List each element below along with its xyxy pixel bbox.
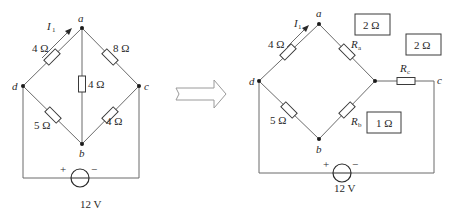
resistor-ab [79,76,86,92]
node-a-label: a [78,12,84,24]
resistor-db-label: 5 Ω [34,119,50,131]
source-voltage-label-right: 12 V [334,182,356,194]
node-d-label: d [12,80,18,92]
resistor-bc-label: 4 Ω [106,115,122,127]
node-d-right [257,79,261,83]
current-sub-right: 1 [298,23,302,31]
right-arrow-icon [176,80,226,108]
value-box-Ra-text: 2 Ω [363,19,379,31]
node-center-right [373,79,377,83]
node-c-label: c [144,80,149,92]
resistor-da-label: 4 Ω [32,42,48,54]
right-circuit: I 1 a d c b 4 Ω 5 Ω R a R b R c 2 Ω 2 Ω … [249,7,442,194]
resistor-Ra-sub: a [358,44,362,52]
resistor-db-right-label: 5 Ω [270,114,286,126]
node-d-label-right: d [249,75,255,87]
resistor-Ra-label: R [350,38,358,50]
source-minus: − [91,163,97,175]
source-plus: + [60,163,66,175]
resistor-ab-label: 4 Ω [88,78,104,90]
source-voltage-label: 12 V [80,198,102,210]
value-box-Rc-text: 2 Ω [414,39,430,51]
resistor-ac-label: 8 Ω [113,42,129,54]
current-sub: 1 [52,26,56,34]
node-b-label-right: b [316,143,322,155]
wire-d-source-right [259,81,333,173]
left-circuit: I 1 a d c b 4 Ω 8 Ω 4 Ω 5 Ω 4 Ω + − 12 V [12,12,149,210]
resistor-Rc-sub: c [407,68,410,76]
node-a-right [317,22,321,26]
source-plus-right: + [323,158,329,170]
node-c-label-right: c [437,74,442,86]
node-b-label: b [79,147,85,159]
resistor-Rc-label: R [399,62,407,74]
resistor-da-right-label: 4 Ω [268,38,284,50]
node-d [21,84,25,88]
resistor-Rb-label: R [350,115,358,127]
resistor-Rb-sub: b [358,121,362,129]
circuit-diagram: I 1 a d c b 4 Ω 8 Ω 4 Ω 5 Ω 4 Ω + − 12 V [0,0,456,218]
node-b-right [317,137,321,141]
node-a [80,26,84,30]
resistor-Rc [397,78,415,85]
value-box-Rb-text: 1 Ω [376,117,392,129]
source-minus-right: − [352,158,358,170]
node-a-label-right: a [316,7,322,19]
node-c [137,84,141,88]
node-b [80,142,84,146]
